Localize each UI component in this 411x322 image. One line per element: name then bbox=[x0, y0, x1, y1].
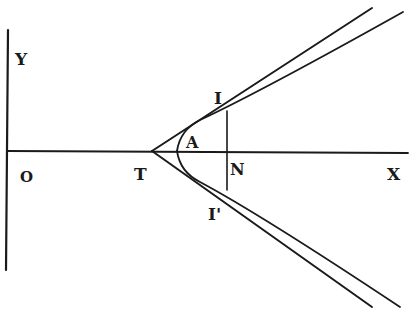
hyperbola-diagram: Y O T A I N I' X bbox=[0, 0, 411, 322]
label-i: I bbox=[214, 88, 222, 108]
lower-tangent-line bbox=[152, 151, 372, 307]
x-axis-line bbox=[8, 151, 408, 153]
diagram-canvas: Y O T A I N I' X bbox=[0, 0, 411, 322]
upper-hyperbola-branch bbox=[177, 12, 403, 151]
label-o: O bbox=[20, 168, 33, 186]
label-n: N bbox=[230, 160, 245, 179]
y-axis-line bbox=[6, 30, 8, 270]
label-a: A bbox=[185, 133, 199, 152]
label-i-prime: I' bbox=[208, 204, 221, 224]
upper-tangent-line bbox=[152, 8, 372, 151]
label-t: T bbox=[134, 164, 147, 184]
label-x: X bbox=[387, 164, 401, 184]
label-y: Y bbox=[14, 49, 28, 69]
lower-hyperbola-branch bbox=[177, 151, 400, 307]
